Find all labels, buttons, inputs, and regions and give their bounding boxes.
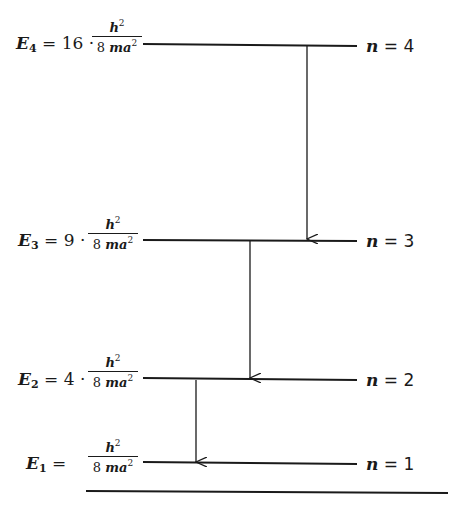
energy-symbol: E4 [16, 33, 37, 53]
fraction-e2: h2 8 ma2 [88, 353, 138, 390]
equals-sign: = [52, 453, 66, 473]
fraction-e3: h2 8 ma2 [88, 215, 138, 252]
n-label-2: n = 2 [366, 370, 414, 390]
energy-level-diagram [0, 0, 458, 508]
coefficient: 16 · [62, 33, 94, 53]
n-label-3: n = 3 [366, 231, 414, 251]
equals-sign: = [44, 369, 58, 389]
n-label-1: n = 1 [366, 454, 414, 474]
fraction-e4: h2 8 ma2 [92, 18, 142, 55]
n-label-4: n = 4 [366, 36, 414, 56]
level-line-n3 [143, 240, 357, 241]
equals-sign: = [44, 230, 58, 250]
equals-sign: = [42, 33, 56, 53]
energy-label-e3: E3 = 9 · [18, 230, 85, 252]
energy-symbol: E3 [18, 230, 39, 250]
coefficient: 4 · [64, 369, 86, 389]
level-line-n1 [143, 462, 357, 464]
coefficient: 9 · [64, 230, 86, 250]
level-line-n4 [143, 44, 357, 46]
energy-symbol: E1 [26, 453, 47, 473]
energy-label-e1: E1 = [26, 453, 66, 475]
fraction-e1: h2 8 ma2 [88, 438, 138, 475]
baseline [86, 491, 448, 493]
energy-label-e4: E4 = 16 · [16, 33, 94, 55]
level-line-n2 [143, 378, 357, 380]
energy-label-e2: E2 = 4 · [18, 369, 85, 391]
energy-symbol: E2 [18, 369, 39, 389]
